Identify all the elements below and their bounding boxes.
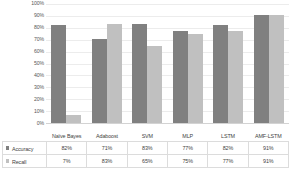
bar-group	[46, 4, 87, 123]
table-cell: 77%	[167, 142, 207, 155]
bar-chart-with-data-table: 0%10%20%30%40%50%60%70%80%90%100% Naïve …	[0, 0, 291, 182]
table-cell: 83%	[127, 142, 167, 155]
plot-area	[46, 4, 289, 124]
table-cell: 71%	[87, 142, 127, 155]
table-cell: 91%	[248, 155, 288, 168]
bar-accuracy	[254, 15, 269, 123]
table-corner-cell	[3, 130, 47, 142]
table-row: Recall7%83%65%75%77%91%	[3, 155, 289, 168]
table-column-header: MLP	[167, 130, 207, 142]
bar-accuracy	[51, 25, 66, 123]
y-axis-tick-label: 30%	[34, 85, 44, 90]
bar-group	[127, 4, 168, 123]
table-cell: 91%	[248, 142, 288, 155]
table-cell: 82%	[208, 142, 248, 155]
table-column-header: SVM	[127, 130, 167, 142]
series-label: Accuracy	[12, 145, 33, 151]
y-axis: 0%10%20%30%40%50%60%70%80%90%100%	[18, 4, 44, 124]
y-axis-tick-label: 100%	[31, 1, 44, 6]
bar-recall	[107, 24, 122, 123]
y-axis-tick-label: 60%	[34, 49, 44, 54]
table-column-header: AMF-LSTM	[248, 130, 288, 142]
table-cell: 77%	[208, 155, 248, 168]
data-table-body: Naïve BayesAdaboostSVMMLPLSTMAMF-LSTMAcc…	[3, 130, 289, 168]
bar-recall	[228, 31, 243, 123]
bar-group	[208, 4, 249, 123]
table-column-header: Adaboost	[87, 130, 127, 142]
bar-recall	[66, 115, 81, 123]
y-axis-tick-label: 0%	[37, 121, 44, 126]
y-axis-tick-label: 20%	[34, 97, 44, 102]
table-column-header: LSTM	[208, 130, 248, 142]
bar-group	[168, 4, 209, 123]
bar-accuracy	[213, 25, 228, 123]
y-axis-tick-label: 50%	[34, 61, 44, 66]
table-header-row: Naïve BayesAdaboostSVMMLPLSTMAMF-LSTM	[3, 130, 289, 142]
plot-block: 0%10%20%30%40%50%60%70%80%90%100%	[0, 4, 291, 136]
table-cell: 75%	[167, 155, 207, 168]
legend-swatch-icon	[6, 146, 9, 149]
table-column-header: Naïve Bayes	[47, 130, 87, 142]
bar-accuracy	[92, 39, 107, 123]
table-cell: 82%	[47, 142, 87, 155]
data-table: Naïve BayesAdaboostSVMMLPLSTMAMF-LSTMAcc…	[2, 130, 289, 168]
y-axis-tick-label: 70%	[34, 37, 44, 42]
y-axis-tick-label: 90%	[34, 13, 44, 18]
legend-item-accuracy: Accuracy	[3, 142, 47, 155]
y-axis-tick-label: 40%	[34, 73, 44, 78]
bar-group	[87, 4, 128, 123]
legend-swatch-icon	[6, 159, 9, 162]
bar-group	[249, 4, 290, 123]
bar-accuracy	[173, 31, 188, 123]
legend-item-recall: Recall	[3, 155, 47, 168]
bar-recall	[188, 34, 203, 123]
y-axis-tick-label: 80%	[34, 25, 44, 30]
bar-accuracy	[132, 24, 147, 123]
table-cell: 83%	[87, 155, 127, 168]
bar-groups	[46, 4, 289, 123]
table-cell: 7%	[47, 155, 87, 168]
bar-recall	[269, 15, 284, 123]
bar-recall	[147, 46, 162, 123]
table-row: Accuracy82%71%83%77%82%91%	[3, 142, 289, 155]
y-axis-tick-label: 10%	[34, 109, 44, 114]
table-cell: 65%	[127, 155, 167, 168]
series-label: Recall	[12, 158, 26, 164]
